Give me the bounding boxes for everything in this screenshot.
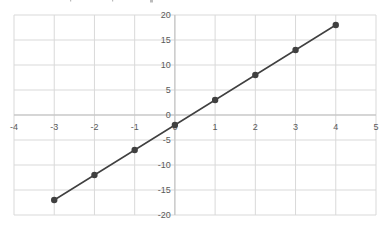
x-tick-label: -2 <box>90 122 98 132</box>
y-tick-label: 5 <box>166 85 171 95</box>
y-tick-label: 0 <box>166 110 171 120</box>
x-axis-tick-labels: -4-3-2-1012345 <box>10 122 379 132</box>
axes <box>14 15 376 215</box>
data-point-marker <box>252 72 258 78</box>
y-tick-label: -15 <box>158 185 171 195</box>
x-tick-label: -3 <box>50 122 58 132</box>
y-tick-label: -20 <box>158 210 171 220</box>
data-point-marker <box>212 97 218 103</box>
x-tick-label: 3 <box>293 122 298 132</box>
data-point-marker <box>51 197 57 203</box>
data-point-marker <box>333 22 339 28</box>
data-point-marker <box>292 47 298 53</box>
x-tick-label: 1 <box>213 122 218 132</box>
y-tick-label: 10 <box>161 60 171 70</box>
y-tick-label: 15 <box>161 35 171 45</box>
x-tick-label: -4 <box>10 122 18 132</box>
data-point-marker <box>131 147 137 153</box>
line-chart: -4-3-2-1012345 -20-15-10-505101520 <box>0 0 384 225</box>
x-tick-label: 4 <box>333 122 338 132</box>
x-tick-label: 2 <box>253 122 258 132</box>
y-tick-label: 20 <box>161 10 171 20</box>
data-point-marker <box>91 172 97 178</box>
clipped-title-fragment <box>70 0 153 3</box>
y-tick-label: -5 <box>163 135 171 145</box>
y-tick-label: -10 <box>158 160 171 170</box>
x-tick-label: -1 <box>131 122 139 132</box>
data-point-marker <box>172 122 178 128</box>
x-tick-label: 5 <box>373 122 378 132</box>
